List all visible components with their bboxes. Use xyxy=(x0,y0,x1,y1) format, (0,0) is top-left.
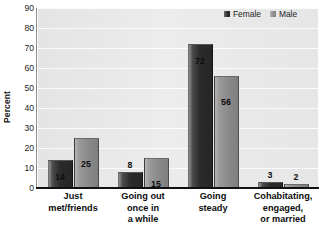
y-axis-tick-label: 60 xyxy=(14,64,34,73)
y-axis-tick-label: 20 xyxy=(14,144,34,153)
legend-label-female: Female xyxy=(233,10,261,18)
y-axis-tick-label: 90 xyxy=(14,4,34,13)
value-label-male-3: 2 xyxy=(284,173,309,182)
value-label-female-1: 8 xyxy=(118,161,143,170)
x-axis-category-label-3: Cohabitating, engaged, or married xyxy=(242,191,324,226)
bar-female-1 xyxy=(118,172,143,188)
legend-label-male: Male xyxy=(279,10,297,18)
y-axis-tick-label: 40 xyxy=(14,104,34,113)
y-axis-line xyxy=(36,8,37,189)
gridline xyxy=(38,68,318,69)
gridline xyxy=(38,128,318,129)
y-axis-tick-label: 80 xyxy=(14,24,34,33)
bar-male-2 xyxy=(214,76,239,188)
value-label-male-2: 56 xyxy=(214,98,239,107)
value-label-male-0: 25 xyxy=(74,160,99,169)
value-label-female-0: 14 xyxy=(48,173,73,182)
y-axis-title-text: Percent xyxy=(2,91,12,123)
gridline xyxy=(38,88,318,89)
y-axis-title: Percent xyxy=(0,72,14,142)
value-label-male-1: 15 xyxy=(144,180,169,189)
legend: FemaleMale xyxy=(224,10,297,18)
gridline xyxy=(38,48,318,49)
legend-swatch-icon-female xyxy=(224,11,230,17)
y-axis-tick-label: 10 xyxy=(14,164,34,173)
legend-swatch-icon-male xyxy=(270,11,276,17)
y-axis-tick-label: 30 xyxy=(14,124,34,133)
gridline xyxy=(38,8,318,9)
x-axis-line xyxy=(36,187,319,189)
gridline xyxy=(38,108,318,109)
y-axis-tick-label: 50 xyxy=(14,84,34,93)
y-axis-tick-label: 0 xyxy=(14,184,34,193)
bar-chart: Percent 0102030405060708090 Just met/fri… xyxy=(0,0,326,231)
value-label-female-2: 72 xyxy=(188,57,213,66)
y-axis-tick-label: 70 xyxy=(14,44,34,53)
value-label-female-3: 3 xyxy=(258,171,283,180)
legend-item-male: Male xyxy=(270,10,297,18)
legend-item-female: Female xyxy=(224,10,261,18)
gridline xyxy=(38,28,318,29)
